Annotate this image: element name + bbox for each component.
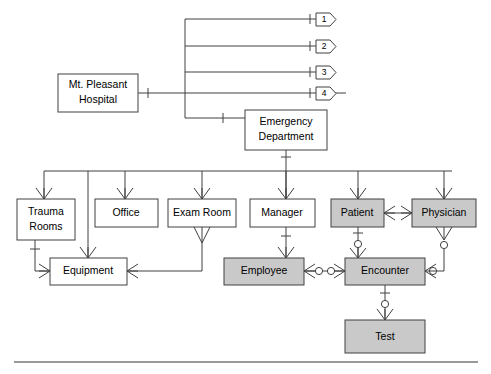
er-diagram-svg: Mt. Pleasant Hospital Emergency Departme… <box>0 0 491 374</box>
reference-3[interactable]: 3 <box>316 66 336 79</box>
patient-encounter-group <box>350 227 366 258</box>
hospital-connections-group <box>138 14 346 123</box>
reference-1-label: 1 <box>322 14 327 24</box>
reference-4[interactable]: 4 <box>316 87 336 100</box>
trauma-equipment-group <box>30 240 50 278</box>
entity-patient[interactable]: Patient <box>331 199 384 227</box>
entity-trauma-rooms[interactable]: Trauma Rooms <box>17 199 75 240</box>
entity-emergency-department-label-line2: Department <box>259 130 314 142</box>
crowsfoot-test-top <box>377 309 393 320</box>
office-equipment-group <box>80 171 96 258</box>
entity-patient-label: Patient <box>341 206 374 218</box>
optional-circle-patient-encounter <box>354 240 361 247</box>
entity-hospital[interactable]: Mt. Pleasant Hospital <box>58 74 138 112</box>
crowsfoot-office-top <box>117 188 133 199</box>
entity-trauma-rooms-label-line2: Rooms <box>29 220 62 232</box>
entity-emergency-department-label-line1: Emergency <box>259 115 313 127</box>
entity-employee[interactable]: Employee <box>224 258 304 285</box>
entity-manager[interactable]: Manager <box>250 199 315 227</box>
entity-emergency-department[interactable]: Emergency Department <box>245 110 327 150</box>
encounter-test-group <box>377 285 393 320</box>
crowsfoot-physician-left <box>401 206 412 220</box>
references-layer: 1 2 3 4 <box>316 13 336 100</box>
entity-physician[interactable]: Physician <box>412 199 476 227</box>
entity-office-label: Office <box>112 206 139 218</box>
crowsfoot-trauma-top <box>36 188 52 199</box>
entity-office[interactable]: Office <box>95 199 158 227</box>
manager-employee-group <box>278 227 294 258</box>
entity-hospital-label-line2: Hospital <box>79 93 117 105</box>
optional-circle-employee-side <box>315 267 322 274</box>
crowsfoot-equipment-left <box>39 264 50 278</box>
examroom-to-equipment-line <box>127 243 202 271</box>
entity-physician-label: Physician <box>422 206 467 218</box>
crowsfoot-encounter-left <box>334 264 345 278</box>
entity-exam-room-label: Exam Room <box>173 206 231 218</box>
crowsfoot-equipment-right <box>127 264 138 278</box>
reference-4-label: 4 <box>322 88 327 98</box>
ed-to-bus-group <box>36 150 452 199</box>
examroom-equipment-group <box>127 227 210 278</box>
entity-test-label: Test <box>375 330 394 342</box>
er-diagram-canvas: Mt. Pleasant Hospital Emergency Departme… <box>0 0 491 374</box>
patient-physician-group <box>384 206 412 220</box>
crowsfoot-encounter-right <box>425 264 436 278</box>
physician-to-encounter-line <box>437 249 444 271</box>
entity-trauma-rooms-label-line1: Trauma <box>28 205 64 217</box>
reference-2[interactable]: 2 <box>316 40 336 53</box>
crowsfoot-employee-top <box>278 247 294 258</box>
crowsfoot-patient-right <box>384 206 395 220</box>
entity-exam-room[interactable]: Exam Room <box>168 199 236 227</box>
optional-circle-encounter-test <box>381 300 388 307</box>
optional-circle-physician <box>440 241 447 248</box>
entity-encounter[interactable]: Encounter <box>345 258 425 285</box>
reference-1[interactable]: 1 <box>316 13 336 26</box>
crowsfoot-encounter-top <box>350 248 366 258</box>
reference-2-label: 2 <box>322 41 327 51</box>
crowsfoot-patient-top <box>350 188 366 199</box>
crowsfoot-examroom-bottom <box>194 227 210 243</box>
crowsfoot-examroom-top <box>194 188 210 199</box>
entity-equipment[interactable]: Equipment <box>50 258 127 285</box>
employee-encounter-group <box>304 264 345 278</box>
entity-manager-label: Manager <box>261 206 303 218</box>
optional-circle-encounter-side <box>327 267 334 274</box>
crowsfoot-physician-top <box>436 188 452 199</box>
crowsfoot-equipment-top <box>80 247 96 258</box>
entity-hospital-label-line1: Mt. Pleasant <box>69 78 127 90</box>
crowsfoot-manager-top <box>278 188 294 199</box>
crowsfoot-employee-right <box>304 264 315 278</box>
entity-employee-label: Employee <box>241 264 288 276</box>
entity-encounter-label: Encounter <box>361 264 409 276</box>
entity-test[interactable]: Test <box>345 320 425 353</box>
crowsfoot-physician-bottom <box>436 227 452 240</box>
entity-equipment-label: Equipment <box>63 264 113 276</box>
physician-encounter-group <box>425 227 452 278</box>
reference-3-label: 3 <box>322 67 327 77</box>
